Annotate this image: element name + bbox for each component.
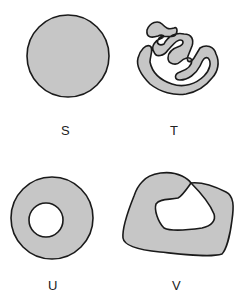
label-s: S bbox=[61, 123, 70, 138]
spiral-shape bbox=[138, 22, 218, 95]
disk-shape bbox=[27, 15, 109, 97]
figure-v: V bbox=[123, 173, 233, 293]
figure-u: U bbox=[11, 177, 93, 293]
label-t: T bbox=[170, 123, 178, 138]
figure-s: S bbox=[27, 15, 109, 138]
figure-t: T bbox=[138, 22, 218, 138]
annulus-hole bbox=[29, 203, 63, 237]
shapes-diagram: S T U V bbox=[0, 0, 243, 301]
label-v: V bbox=[172, 278, 181, 293]
label-u: U bbox=[48, 278, 57, 293]
